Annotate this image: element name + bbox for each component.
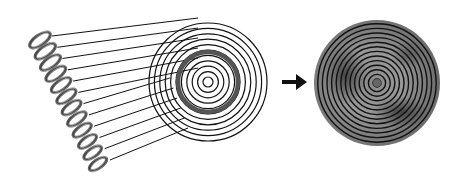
- concentric-rings: [149, 23, 267, 141]
- coil: [27, 29, 108, 173]
- result-disk: [314, 20, 440, 146]
- arrow-right-icon: [282, 74, 307, 90]
- diagram: Helical coil projected via fan of lines …: [0, 0, 467, 179]
